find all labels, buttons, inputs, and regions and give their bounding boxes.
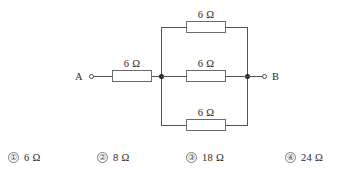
option-4-label: 24 Ω: [301, 152, 323, 163]
option-3-label: 18 Ω: [202, 152, 224, 163]
wire-middle-branch-left-lead: [161, 76, 186, 77]
terminal-label-b: B: [272, 71, 279, 82]
option-2[interactable]: ② 8 Ω: [97, 152, 130, 163]
middle-branch-resistor-label: 6 Ω: [186, 58, 226, 69]
wire-bottom-branch-right-lead: [226, 125, 248, 126]
option-3[interactable]: ③ 18 Ω: [186, 152, 224, 163]
bottom-branch-resistor-label: 6 Ω: [186, 107, 226, 118]
option-4[interactable]: ④ 24 Ω: [285, 152, 323, 163]
wire-top-branch-left-lead: [161, 27, 186, 28]
series-resistor-label: 6 Ω: [112, 58, 152, 69]
bottom-branch-resistor-body: [186, 119, 226, 131]
terminal-ring-b: [262, 74, 267, 79]
series-resistor-body: [112, 70, 152, 82]
wire-middle-branch-right-lead: [226, 76, 248, 77]
middle-branch-resistor-body: [186, 70, 226, 82]
option-2-number: ②: [97, 152, 108, 163]
top-branch-resistor-body: [186, 21, 226, 33]
option-1-number: ①: [8, 152, 19, 163]
answer-options: ① 6 Ω ② 8 Ω ③ 18 Ω ④ 24 Ω: [0, 150, 351, 170]
option-1-label: 6 Ω: [24, 152, 41, 163]
wire-bottom-branch-left-lead: [161, 125, 186, 126]
top-branch-resistor-label: 6 Ω: [186, 9, 226, 20]
wire-top-branch-right-lead: [226, 27, 248, 28]
question-figure: A 6 Ω 6 Ω 6 Ω 6 Ω B: [0, 0, 351, 173]
option-2-label: 8 Ω: [113, 152, 130, 163]
terminal-label-a: A: [75, 71, 83, 82]
option-4-number: ④: [285, 152, 296, 163]
wire-a-to-series-resistor: [94, 76, 112, 77]
wire-right-node-to-b: [247, 76, 262, 77]
option-1[interactable]: ① 6 Ω: [8, 152, 41, 163]
option-3-number: ③: [186, 152, 197, 163]
